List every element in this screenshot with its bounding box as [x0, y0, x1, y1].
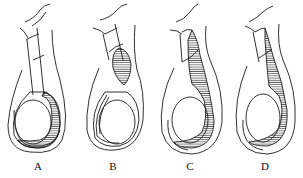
panel-b-drawing	[75, 0, 151, 178]
panel-a-drawing	[0, 0, 76, 178]
panel-label: D	[227, 160, 303, 172]
panel-a: A	[0, 0, 76, 178]
panel-c-drawing	[152, 0, 228, 178]
panel-d-drawing	[227, 0, 303, 178]
panel-b: B	[75, 0, 151, 178]
panel-label: B	[75, 160, 151, 172]
panel-d: D	[227, 0, 303, 178]
panel-label: C	[152, 160, 228, 172]
panel-c: C	[152, 0, 228, 178]
panel-label: A	[0, 160, 76, 172]
